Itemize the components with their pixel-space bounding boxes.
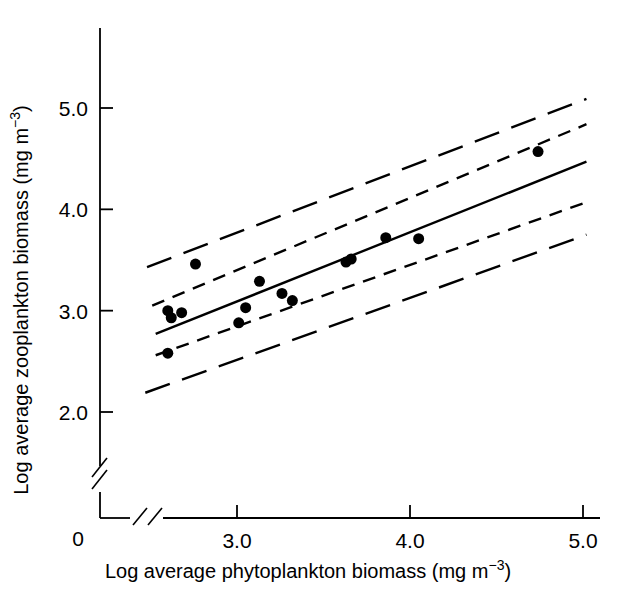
x-tick-label: 4.0 [395,529,424,552]
y-axis-title: Log average zooplankton biomass (mg m−3) [7,105,32,495]
axis-title-exponent: −3 [7,112,23,128]
x-tick-label: 5.0 [568,529,597,552]
x-tick-label: 3.0 [222,529,251,552]
data-point [162,348,173,359]
lower-confidence-band [156,202,587,355]
axis-title-tail: ) [504,560,511,582]
axis-title-main: Log average phytoplankton biomass (mg m [105,560,489,582]
data-point [380,232,391,243]
x-axis-title: Log average phytoplankton biomass (mg m−… [105,557,511,582]
data-point [287,295,298,306]
upper-prediction-band [147,99,586,267]
tick-labels: 2.03.04.05.03.04.05.00 [59,97,598,552]
data-point [346,253,357,264]
axes [92,28,600,525]
y-axis-break-mark [92,470,107,489]
axis-title-main: Log average zooplankton biomass (mg m [10,128,32,495]
data-point [254,276,265,287]
figure-container: 2.03.04.05.03.04.05.00 Log average phyto… [0,0,617,597]
lower-prediction-band [145,235,586,393]
data-point [166,312,177,323]
x-axis-break-mark [133,508,147,525]
data-point [413,233,424,244]
regression-line [156,162,587,334]
data-point [533,146,544,157]
scatter-plot: 2.03.04.05.03.04.05.00 Log average phyto… [0,0,617,597]
data-point [233,317,244,328]
x-axis-break-mark [148,508,162,525]
origin-label: 0 [72,527,84,550]
data-point [276,288,287,299]
data-point [190,259,201,270]
axis-title-tail: ) [10,105,32,112]
data-points [162,146,543,359]
axis-title-exponent: −3 [488,557,504,573]
regression-line [156,162,587,334]
y-tick-label: 3.0 [59,300,88,323]
data-point [240,302,251,313]
y-tick-label: 4.0 [59,198,88,221]
data-point [176,307,187,318]
regression-bands [145,99,586,393]
y-tick-label: 2.0 [59,401,88,424]
y-tick-label: 5.0 [59,97,88,120]
